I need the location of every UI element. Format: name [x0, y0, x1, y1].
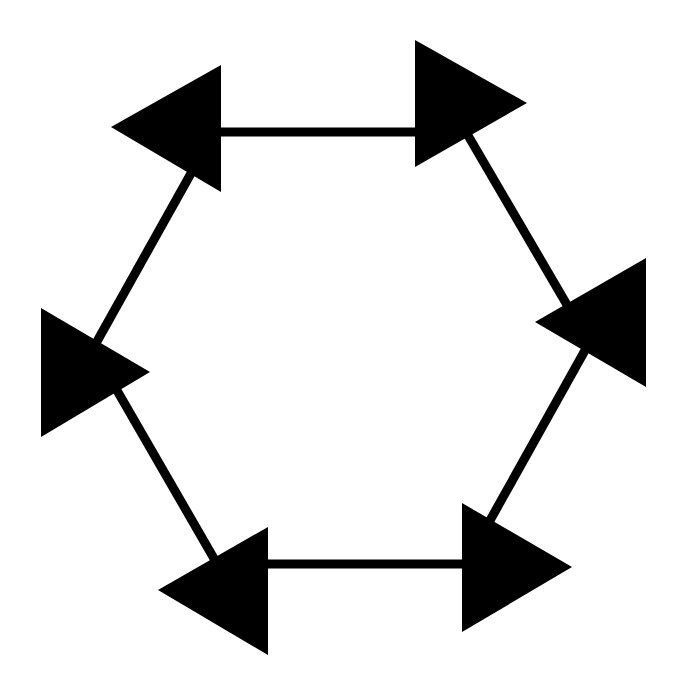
edge-upper-left [95, 168, 194, 345]
triangle-right-pointing-icon [462, 503, 572, 632]
hexagon-cycle-diagram [0, 0, 681, 689]
triangle-left-pointing-icon [111, 65, 221, 192]
edge-lower-right [488, 345, 588, 524]
edge-lower-left [115, 387, 216, 562]
edges [95, 132, 588, 564]
triangle-left-pointing-icon [158, 527, 268, 655]
edge-upper-right [466, 132, 570, 310]
